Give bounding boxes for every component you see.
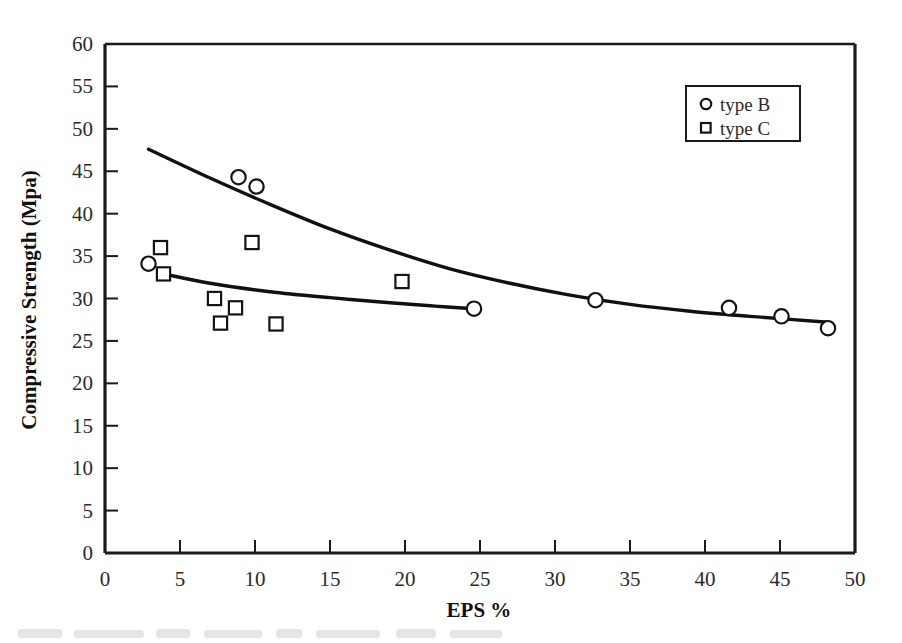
data-point-type-b-0 xyxy=(141,257,155,271)
legend-label-type-c: type C xyxy=(720,118,770,139)
legend-square-marker-icon xyxy=(701,123,711,133)
data-point-type-b-5 xyxy=(722,301,736,315)
y-tick-label-60: 60 xyxy=(72,32,93,56)
y-tick-label-45: 45 xyxy=(72,159,93,183)
x-tick-label-15: 15 xyxy=(320,567,341,591)
x-tick-label-25: 25 xyxy=(470,567,491,591)
legend-circle-marker-icon xyxy=(701,99,711,109)
y-tick-label-10: 10 xyxy=(72,456,93,480)
y-tick-label-20: 20 xyxy=(72,371,93,395)
x-tick-label-45: 45 xyxy=(770,567,791,591)
y-tick-label-25: 25 xyxy=(72,329,93,353)
chart-legend: type B type C xyxy=(686,86,800,141)
data-point-type-b-7 xyxy=(821,321,835,335)
data-point-type-b-6 xyxy=(774,309,788,323)
data-point-type-c-7 xyxy=(395,275,408,288)
legend-label-type-b: type B xyxy=(720,94,770,115)
data-point-type-c-2 xyxy=(208,292,221,305)
data-point-type-c-6 xyxy=(269,317,282,330)
data-point-type-c-5 xyxy=(245,236,258,249)
x-tick-label-0: 0 xyxy=(100,567,111,591)
x-tick-label-35: 35 xyxy=(620,567,641,591)
y-tick-label-15: 15 xyxy=(72,414,93,438)
y-tick-label-5: 5 xyxy=(83,499,94,523)
x-tick-label-30: 30 xyxy=(545,567,566,591)
data-point-type-b-3 xyxy=(467,301,481,315)
x-axis-title: EPS % xyxy=(447,598,512,622)
y-axis-title: Compressive Strength (Mpa) xyxy=(17,170,41,429)
x-tick-label-40: 40 xyxy=(695,567,716,591)
x-tick-label-10: 10 xyxy=(245,567,266,591)
data-point-type-b-1 xyxy=(231,170,245,184)
y-tick-label-50: 50 xyxy=(72,117,93,141)
data-point-type-b-4 xyxy=(588,293,602,307)
y-tick-label-35: 35 xyxy=(72,244,93,268)
x-tick-label-5: 5 xyxy=(175,567,186,591)
y-tick-label-55: 55 xyxy=(72,74,93,98)
y-tick-label-30: 30 xyxy=(72,287,93,311)
data-point-type-c-4 xyxy=(214,317,227,330)
data-point-type-c-0 xyxy=(154,241,167,254)
data-point-type-c-3 xyxy=(229,301,242,314)
x-tick-label-50: 50 xyxy=(845,567,866,591)
y-tick-label-0: 0 xyxy=(83,541,94,565)
x-tick-label-20: 20 xyxy=(395,567,416,591)
scan-artifacts xyxy=(18,629,502,638)
compressive-strength-vs-eps-chart: 051015202530354045505560 051015202530354… xyxy=(0,0,902,643)
data-point-type-b-2 xyxy=(249,179,263,193)
y-tick-label-40: 40 xyxy=(72,202,93,226)
figure-container: 051015202530354045505560 051015202530354… xyxy=(0,0,902,643)
data-point-type-c-1 xyxy=(157,267,170,280)
